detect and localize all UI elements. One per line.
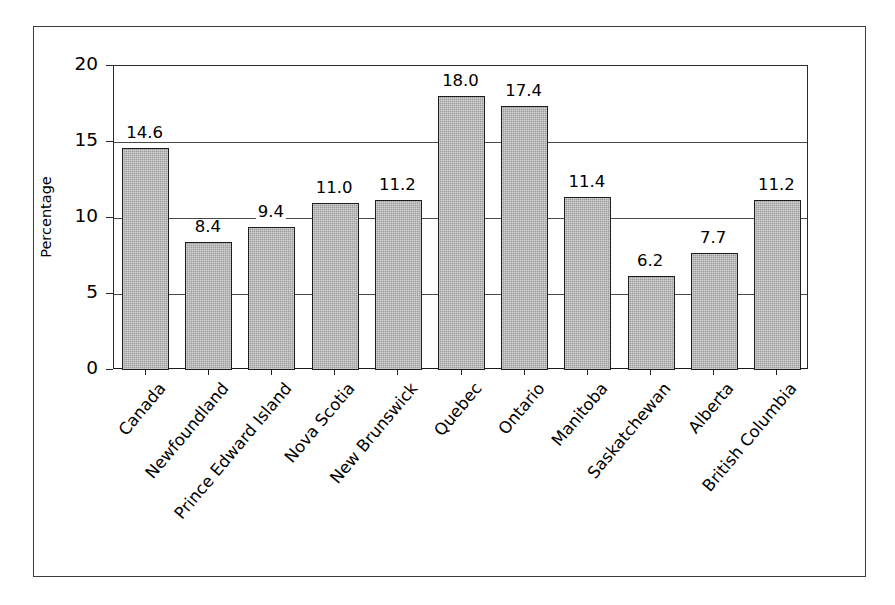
bar: [501, 106, 548, 370]
bar-value-label: 17.4: [503, 83, 544, 100]
bar: [691, 253, 738, 370]
figure-canvas: Percentage 05101520 14.68.49.411.011.218…: [0, 0, 895, 605]
y-tick-label: 20: [52, 55, 98, 74]
bar: [438, 96, 485, 370]
y-tick-mark: [106, 293, 113, 294]
bar: [312, 203, 359, 370]
y-tick-mark: [106, 65, 113, 66]
x-tick-mark: [587, 369, 588, 375]
y-tick-mark: [106, 141, 113, 142]
bar-value-label: 6.2: [635, 253, 665, 270]
bar-value-label: 8.4: [193, 219, 223, 236]
bar: [628, 276, 675, 370]
y-tick-label: 5: [52, 283, 98, 302]
bar: [564, 197, 611, 370]
x-tick-mark: [334, 369, 335, 375]
x-tick-mark: [271, 369, 272, 375]
bar-value-label: 11.0: [314, 180, 355, 197]
bar-value-label: 14.6: [124, 125, 165, 142]
x-tick-mark: [524, 369, 525, 375]
bar: [375, 200, 422, 370]
x-tick-mark: [461, 369, 462, 375]
y-tick-mark: [106, 369, 113, 370]
bar-value-label: 11.2: [377, 177, 418, 194]
bar-value-label: 7.7: [698, 230, 728, 247]
bar: [754, 200, 801, 370]
bar-value-label: 18.0: [440, 73, 481, 90]
bar: [122, 148, 169, 370]
y-tick-label: 0: [52, 359, 98, 378]
x-tick-mark: [397, 369, 398, 375]
bar-value-label: 11.2: [756, 177, 797, 194]
x-tick-mark: [776, 369, 777, 375]
y-tick-mark: [106, 217, 113, 218]
bar: [185, 242, 232, 370]
bar-value-label: 11.4: [566, 174, 607, 191]
x-tick-mark: [145, 369, 146, 375]
x-tick-mark: [713, 369, 714, 375]
bar-value-label: 9.4: [256, 204, 286, 221]
x-tick-mark: [650, 369, 651, 375]
x-tick-mark: [208, 369, 209, 375]
y-tick-label: 10: [52, 207, 98, 226]
y-tick-label: 15: [52, 131, 98, 150]
bar: [248, 227, 295, 370]
